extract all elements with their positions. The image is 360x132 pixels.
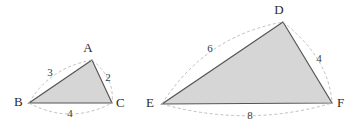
side-length-bc: 4	[67, 107, 73, 119]
side-length-ba: 3	[47, 66, 53, 78]
side-length-ac: 2	[105, 71, 111, 83]
triangle-abc-group: A B C 3 2 4	[14, 40, 125, 119]
side-length-df: 4	[316, 52, 322, 64]
vertex-label-c: C	[116, 95, 125, 110]
vertex-label-e: E	[146, 95, 154, 110]
similar-triangles-figure: A B C 3 2 4 D E F 6 4 8	[0, 0, 360, 132]
vertex-label-a: A	[83, 40, 93, 55]
triangle-def-shape	[162, 22, 332, 104]
side-length-ef: 8	[247, 109, 253, 121]
figure-canvas: A B C 3 2 4 D E F 6 4 8	[0, 0, 360, 132]
vertex-label-f: F	[337, 95, 344, 110]
vertex-label-d: D	[274, 2, 283, 17]
side-length-ed: 6	[207, 42, 213, 54]
triangle-def-group: D E F 6 4 8	[146, 2, 344, 121]
vertex-label-b: B	[14, 94, 23, 109]
